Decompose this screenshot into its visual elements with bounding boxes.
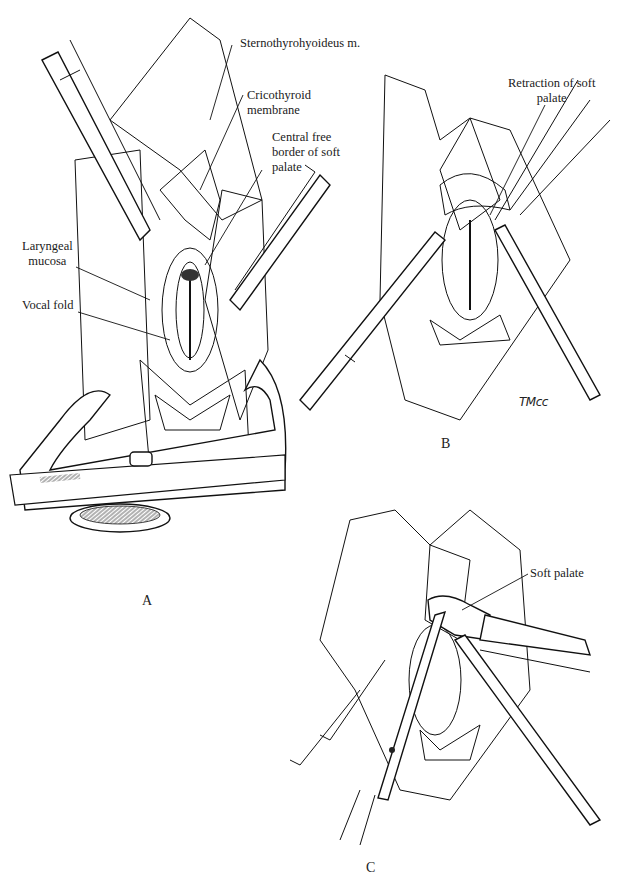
- panel-c-drawing: [290, 510, 600, 845]
- label-line: Retraction of soft: [508, 76, 595, 91]
- panel-letter-b: B: [441, 436, 450, 452]
- label-line: membrane: [247, 103, 311, 118]
- label-laryngeal-mucosa: Laryngeal mucosa: [22, 239, 73, 269]
- label-line: Laryngeal: [22, 239, 73, 254]
- label-line: Cricothyroid: [247, 88, 311, 103]
- panel-b-drawing: [300, 75, 610, 420]
- label-line: mucosa: [22, 254, 73, 269]
- label-line: Sternothyrohyoideus m.: [240, 36, 360, 51]
- panel-b-leader-lines: [490, 105, 545, 215]
- label-central-free-border: Central free border of soft palate: [272, 130, 340, 175]
- label-line: Central free: [272, 130, 340, 145]
- panel-c-leader-lines: [462, 574, 528, 610]
- panel-letter-c: C: [366, 860, 375, 876]
- label-line: Soft palate: [530, 566, 584, 581]
- label-line: palate: [508, 91, 595, 106]
- label-vocal-fold: Vocal fold: [22, 298, 74, 313]
- artist-signature: TMcc: [519, 395, 548, 409]
- panel-letter-a: A: [142, 593, 152, 609]
- label-line: palate: [272, 160, 340, 175]
- label-sternothyrohyoideus: Sternothyrohyoideus m.: [240, 36, 360, 51]
- label-retraction-soft-palate: Retraction of soft palate: [508, 76, 595, 106]
- label-line: border of soft: [272, 145, 340, 160]
- illustration-canvas: Sternothyrohyoideus m. Cricothyroid memb…: [0, 0, 629, 891]
- label-cricothyroid-membrane: Cricothyroid membrane: [247, 88, 311, 118]
- label-line: Vocal fold: [22, 298, 74, 313]
- label-soft-palate: Soft palate: [530, 566, 584, 581]
